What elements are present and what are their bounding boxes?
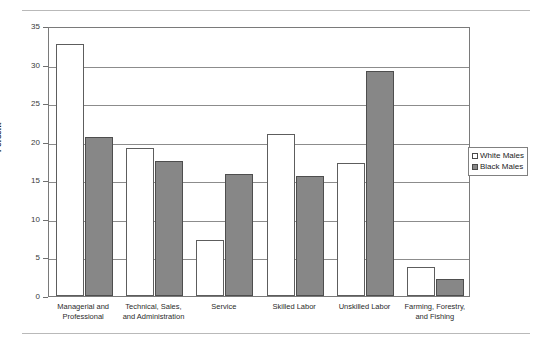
y-axis-title: Percent: [0, 123, 3, 152]
y-axis-tick-label: 35: [16, 23, 40, 31]
bar-black-males: [155, 161, 183, 296]
legend-item: White Males: [472, 150, 524, 161]
bottom-divider-rule: [22, 333, 530, 334]
y-axis-tick-label: 0: [16, 293, 40, 301]
y-axis-tick-label: 5: [16, 254, 40, 262]
bar-white-males: [337, 163, 365, 296]
plot-area: [48, 27, 470, 297]
legend-item-label: White Males: [480, 150, 524, 161]
chart-figure: Percent 05101520253035 Managerial andPro…: [0, 0, 553, 344]
bar-white-males: [126, 148, 154, 296]
bar-black-males: [296, 176, 324, 296]
chart-legend: White MalesBlack Males: [468, 147, 528, 176]
y-axis-tick-label: 25: [16, 100, 40, 108]
top-divider-rule: [22, 10, 530, 11]
bar-white-males: [267, 134, 295, 296]
bar-black-males: [85, 137, 113, 296]
legend-swatch-icon: [472, 164, 478, 170]
y-axis-tick-label: 20: [16, 139, 40, 147]
y-axis-tick-label: 15: [16, 177, 40, 185]
bar-white-males: [196, 240, 224, 296]
bar-black-males: [225, 174, 253, 296]
y-axis-tick-label: 10: [16, 216, 40, 224]
bar-black-males: [436, 279, 464, 296]
y-axis-tick-label: 30: [16, 62, 40, 70]
y-axis-tick: [43, 297, 48, 298]
bar-white-males: [407, 267, 435, 296]
gridline: [49, 105, 469, 106]
legend-swatch-icon: [472, 153, 478, 159]
bar-white-males: [56, 44, 84, 296]
legend-item-label: Black Males: [480, 161, 523, 172]
gridline: [49, 67, 469, 68]
legend-item: Black Males: [472, 161, 524, 172]
bar-black-males: [366, 71, 394, 296]
x-axis-category-label: Farming, Forestry,and Fishing: [394, 302, 476, 322]
